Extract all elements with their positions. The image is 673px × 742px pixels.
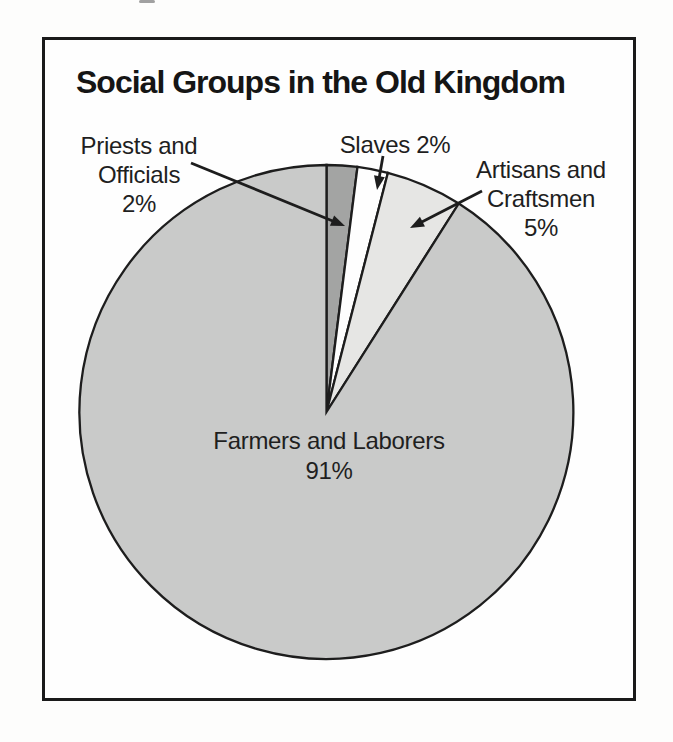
pie-chart: [0, 0, 673, 742]
figure: Social Groups in the Old Kingdom Priests…: [0, 0, 673, 742]
callout-label-slaves: Slaves 2%: [329, 130, 461, 159]
inner-label-farmers-and-laborers: Farmers and Laborers 91%: [206, 426, 452, 486]
callout-label-artisans-and-craftsmen: Artisans and Craftsmen 5%: [460, 155, 622, 242]
callout-label-priests-and-officials: Priests and Officials 2%: [58, 131, 220, 218]
